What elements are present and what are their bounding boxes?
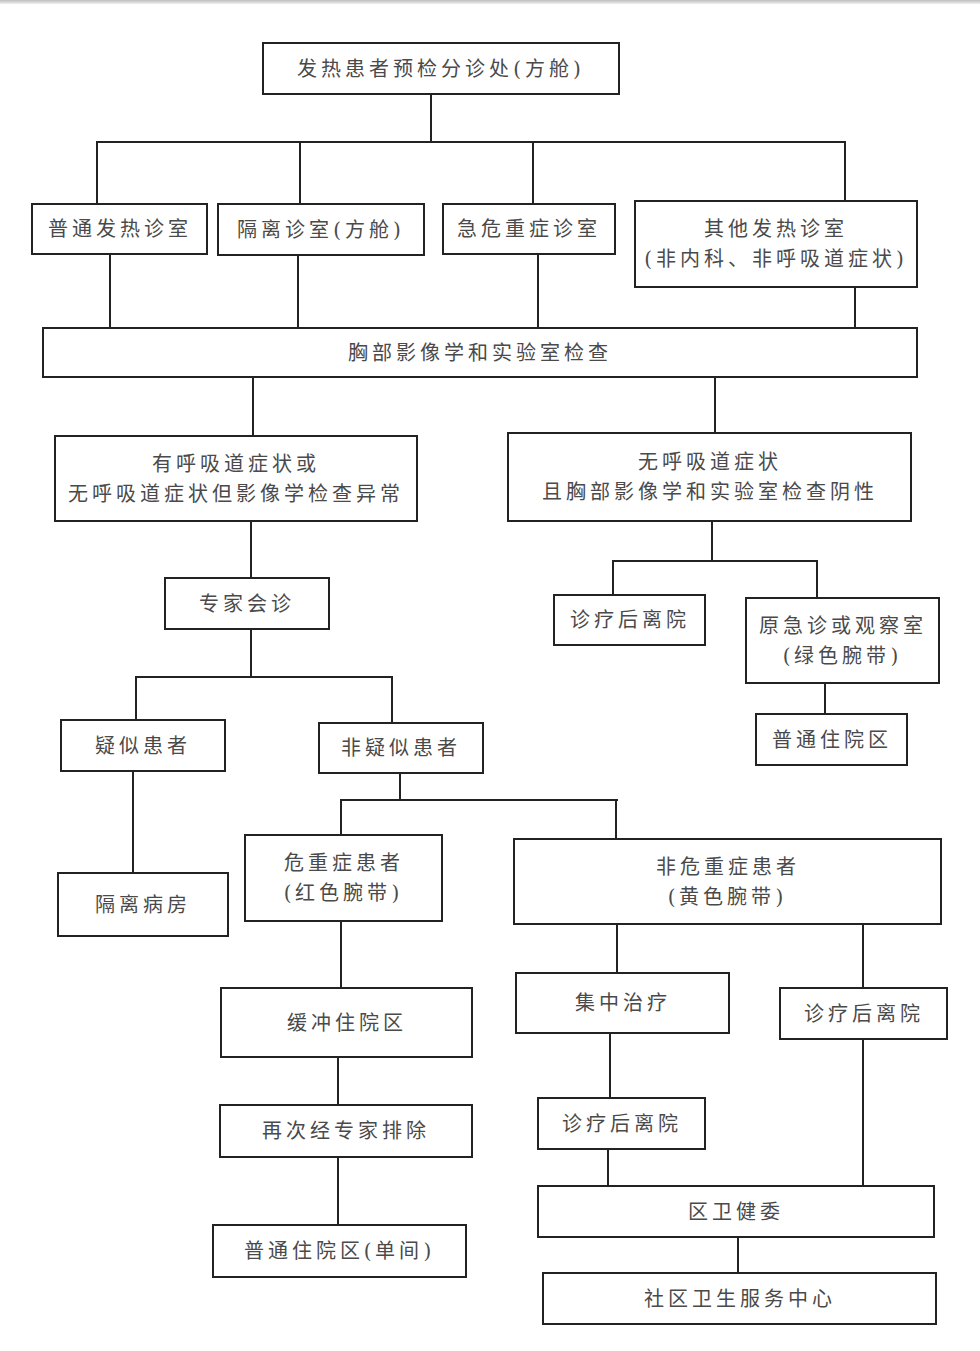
node-label: 社区卫生服务中心	[644, 1284, 836, 1314]
node-chest-imaging-lab: 胸部影像学和实验室检查	[42, 327, 918, 378]
connector	[537, 255, 539, 327]
node-label: 疑似患者	[95, 731, 191, 761]
connector	[250, 522, 252, 577]
node-general-fever-clinic: 普通发热诊室	[31, 203, 208, 255]
node-label: (红色腕带)	[284, 878, 404, 908]
node-label: (非内科、非呼吸道症状)	[644, 244, 908, 274]
node-discharge-after-treatment-3: 诊疗后离院	[537, 1097, 706, 1150]
node-label: 缓冲住院区	[287, 1008, 407, 1038]
node-no-respiratory-negative: 无呼吸道症状 且胸部影像学和实验室检查阴性	[507, 432, 912, 522]
node-suspected-patient: 疑似患者	[60, 719, 226, 772]
node-label: 普通住院区	[772, 725, 892, 755]
node-non-suspected-patient: 非疑似患者	[318, 722, 484, 774]
connector	[340, 922, 342, 987]
connector	[816, 560, 818, 597]
node-centralized-treatment: 集中治疗	[515, 972, 730, 1034]
node-label: 胸部影像学和实验室检查	[348, 338, 612, 368]
node-label: (黄色腕带)	[668, 882, 788, 912]
node-label: 再次经专家排除	[262, 1116, 430, 1146]
connector	[711, 522, 713, 560]
scan-top-edge	[0, 0, 980, 4]
connector	[399, 774, 401, 800]
connector	[299, 141, 301, 203]
node-label: 非危重症患者	[656, 852, 800, 882]
node-label: 发热患者预检分诊处(方舱)	[297, 54, 585, 84]
connector	[862, 1040, 864, 1185]
node-label: 有呼吸道症状或	[152, 449, 320, 479]
connector	[135, 676, 137, 719]
connector	[612, 560, 614, 594]
node-expert-consultation: 专家会诊	[164, 577, 330, 630]
node-label: 普通住院区(单间)	[244, 1236, 436, 1266]
connector	[430, 95, 432, 142]
node-discharge-after-treatment-2: 诊疗后离院	[779, 987, 948, 1040]
node-triage: 发热患者预检分诊处(方舱)	[262, 42, 620, 95]
node-label: 非疑似患者	[341, 733, 461, 763]
node-respiratory-or-abnormal: 有呼吸道症状或 无呼吸道症状但影像学检查异常	[54, 435, 418, 522]
node-label: 且胸部影像学和实验室检查阴性	[542, 477, 878, 507]
connector	[297, 256, 299, 327]
connector	[340, 799, 342, 834]
node-critical-clinic: 急危重症诊室	[442, 203, 616, 255]
connector	[252, 378, 254, 435]
connector	[615, 799, 617, 838]
node-district-health-commission: 区卫健委	[537, 1185, 935, 1238]
connector	[391, 676, 393, 722]
node-label: 无呼吸道症状	[638, 447, 782, 477]
node-label: 诊疗后离院	[562, 1109, 682, 1139]
node-discharge-after-treatment-1: 诊疗后离院	[553, 594, 706, 646]
connector	[532, 141, 534, 203]
connector	[854, 288, 856, 327]
connector	[844, 141, 846, 201]
node-label: 隔离病房	[95, 890, 191, 920]
node-general-ward-1: 普通住院区	[755, 713, 908, 766]
connector	[616, 925, 618, 972]
node-general-ward-single-room: 普通住院区(单间)	[212, 1224, 467, 1278]
node-isolation-ward: 隔离病房	[57, 872, 229, 937]
connector	[714, 378, 716, 432]
node-expert-exclusion-again: 再次经专家排除	[219, 1104, 473, 1158]
node-non-critical-patient: 非危重症患者 (黄色腕带)	[513, 838, 942, 925]
connector	[135, 676, 393, 678]
node-label: (绿色腕带)	[783, 641, 903, 671]
node-label: 危重症患者	[284, 848, 404, 878]
connector	[250, 630, 252, 677]
node-label: 区卫健委	[688, 1197, 784, 1227]
node-label: 诊疗后离院	[570, 605, 690, 635]
node-label: 诊疗后离院	[804, 999, 924, 1029]
connector	[337, 1158, 339, 1224]
node-label: 专家会诊	[199, 589, 295, 619]
node-label: 无呼吸道症状但影像学检查异常	[68, 479, 404, 509]
connector	[337, 1058, 339, 1104]
connector	[109, 255, 111, 327]
connector	[96, 141, 98, 203]
connector	[607, 1150, 609, 1185]
connector	[824, 684, 826, 713]
node-original-emergency-observation: 原急诊或观察室 (绿色腕带)	[745, 597, 940, 684]
node-critical-patient: 危重症患者 (红色腕带)	[244, 834, 443, 922]
node-other-fever-clinic: 其他发热诊室 (非内科、非呼吸道症状)	[634, 200, 918, 288]
node-community-health-center: 社区卫生服务中心	[542, 1272, 937, 1325]
node-label: 集中治疗	[575, 988, 671, 1018]
connector	[609, 1034, 611, 1097]
node-label: 急危重症诊室	[457, 214, 601, 244]
connector	[96, 141, 846, 143]
connector	[132, 772, 134, 872]
node-buffer-ward: 缓冲住院区	[220, 987, 473, 1058]
connector	[862, 925, 864, 987]
node-label: 普通发热诊室	[48, 214, 192, 244]
node-label: 隔离诊室(方舱)	[237, 215, 405, 245]
connector	[737, 1238, 739, 1272]
node-isolation-clinic: 隔离诊室(方舱)	[217, 203, 425, 256]
node-label: 其他发热诊室	[704, 214, 848, 244]
node-label: 原急诊或观察室	[759, 611, 927, 641]
connector	[340, 799, 618, 801]
connector	[612, 560, 818, 562]
